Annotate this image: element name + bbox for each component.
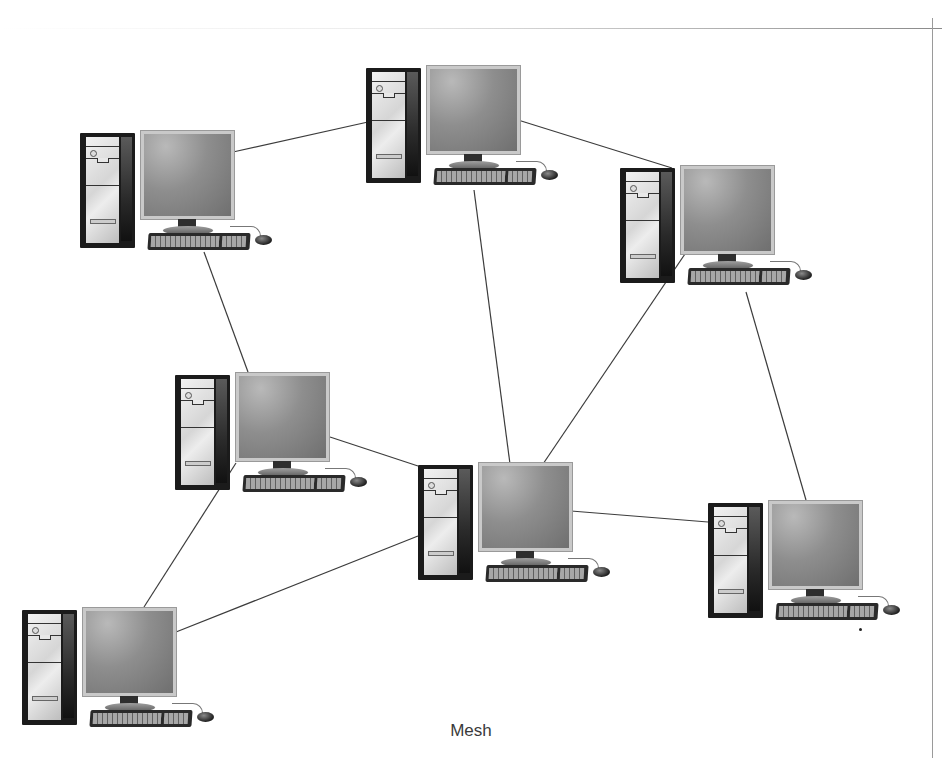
monitor-icon xyxy=(680,165,775,255)
tower-icon xyxy=(22,610,77,725)
link-pc-2-pc-5 xyxy=(474,190,510,464)
link-pc-1-pc-4 xyxy=(204,252,248,372)
keyboard-icon xyxy=(147,233,250,250)
computer-node-pc-7 xyxy=(22,607,222,737)
mouse-icon xyxy=(350,477,367,487)
monitor-icon xyxy=(426,65,521,155)
computer-node-pc-5 xyxy=(418,462,618,592)
mouse-icon xyxy=(541,170,558,180)
monitor-icon xyxy=(82,607,177,697)
monitor-icon xyxy=(140,130,235,220)
link-pc-3-pc-6 xyxy=(746,292,806,500)
stray-dot xyxy=(859,628,862,631)
diagram-caption: Mesh xyxy=(0,721,942,741)
tower-icon xyxy=(418,465,473,580)
computer-node-pc-2 xyxy=(366,65,566,195)
mouse-icon xyxy=(883,605,900,615)
monitor-icon xyxy=(478,462,573,552)
computer-node-pc-3 xyxy=(620,165,820,295)
tower-icon xyxy=(708,503,763,618)
computer-node-pc-4 xyxy=(175,372,375,502)
mouse-icon xyxy=(255,235,272,245)
keyboard-icon xyxy=(485,565,588,582)
keyboard-icon xyxy=(775,603,878,620)
keyboard-icon xyxy=(687,268,790,285)
tower-icon xyxy=(366,68,421,183)
tower-icon xyxy=(620,168,675,283)
monitor-icon xyxy=(768,500,863,590)
keyboard-icon xyxy=(242,475,345,492)
keyboard-icon xyxy=(433,168,536,185)
tower-icon xyxy=(80,133,135,248)
mouse-icon xyxy=(795,270,812,280)
computer-node-pc-1 xyxy=(80,130,280,260)
mouse-icon xyxy=(593,567,610,577)
computer-node-pc-6 xyxy=(708,500,908,630)
monitor-icon xyxy=(235,372,330,462)
tower-icon xyxy=(175,375,230,490)
